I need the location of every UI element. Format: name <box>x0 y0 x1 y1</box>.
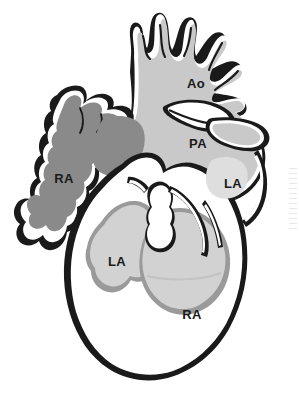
heart-diagram-figure: Ao PA LA RA LA RA <box>0 0 299 411</box>
label-la-right: LA <box>224 176 242 191</box>
heart-illustration: Ao PA LA RA LA RA <box>0 0 299 411</box>
label-ao: Ao <box>187 76 205 91</box>
label-pa: PA <box>189 136 207 151</box>
label-la-lower: LA <box>108 254 126 269</box>
label-ra-left: RA <box>54 171 74 186</box>
label-ra-lower: RA <box>182 307 202 322</box>
valve-apparatus-white <box>147 185 173 248</box>
